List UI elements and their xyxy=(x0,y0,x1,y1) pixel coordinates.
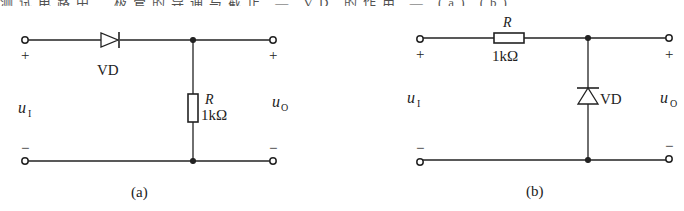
circuit-a-labels: + + − − VD R 1kΩ u I u O (a) xyxy=(18,47,288,201)
circuit-diagrams: + + − − VD R 1kΩ u I u O (a) + + xyxy=(0,0,684,211)
output-plus-sign: + xyxy=(665,46,673,62)
output-voltage-label: u xyxy=(660,89,668,106)
diode-label: VD xyxy=(97,62,119,78)
input-voltage-label: u xyxy=(407,89,415,106)
circuit-b-labels: + + − − R 1kΩ VD u I u O (b) xyxy=(407,15,677,200)
output-voltage-label: u xyxy=(272,93,280,110)
input-terminal-plus xyxy=(22,37,28,43)
diode-label: VD xyxy=(600,91,622,107)
output-minus-sign: − xyxy=(269,140,277,156)
output-terminal-plus xyxy=(270,37,276,43)
input-plus-sign: + xyxy=(416,46,424,62)
junction-dot xyxy=(191,38,196,43)
circuit-b xyxy=(417,33,672,165)
input-terminal-plus xyxy=(417,36,423,42)
input-terminal-minus xyxy=(417,159,423,165)
resistor-name: R xyxy=(204,92,214,107)
junction-dot xyxy=(191,159,196,164)
diode-icon xyxy=(101,33,118,47)
input-minus-sign: − xyxy=(21,140,29,156)
input-minus-sign: − xyxy=(416,140,424,156)
resistor-value: 1kΩ xyxy=(201,107,227,123)
input-voltage-subscript: I xyxy=(28,108,31,119)
diode-icon xyxy=(578,88,598,104)
output-terminal-plus xyxy=(666,35,672,41)
input-voltage-subscript: I xyxy=(417,98,420,109)
output-voltage-subscript: O xyxy=(670,98,677,109)
input-plus-sign: + xyxy=(21,47,29,63)
junction-dot xyxy=(586,158,591,163)
output-minus-sign: − xyxy=(665,138,673,154)
input-voltage-label: u xyxy=(18,99,26,116)
output-terminal-minus xyxy=(270,158,276,164)
junction-dot xyxy=(586,36,591,41)
resistor-name: R xyxy=(502,15,512,30)
output-terminal-minus xyxy=(666,156,672,162)
circuit-a xyxy=(22,32,276,164)
output-voltage-subscript: O xyxy=(281,102,288,113)
caption-b: (b) xyxy=(526,183,544,200)
input-terminal-minus xyxy=(22,158,28,164)
resistor-icon xyxy=(188,94,198,122)
caption-a: (a) xyxy=(131,184,148,201)
resistor-icon xyxy=(494,33,524,43)
output-plus-sign: + xyxy=(269,47,277,63)
resistor-value: 1kΩ xyxy=(492,48,518,64)
